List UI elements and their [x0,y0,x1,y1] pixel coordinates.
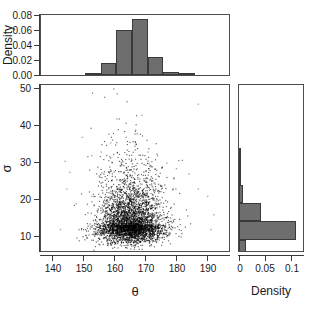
scatter-x-axis-line [40,255,230,256]
right-histogram-bar [239,203,261,221]
top-histogram-y-tick-0 [34,75,39,76]
top-histogram-panel [40,14,230,76]
right-histogram-x-tick-0 [239,256,240,261]
scatter-plot-area [41,85,229,251]
scatter-points-canvas [41,85,229,251]
right-histogram-x-ticklabel-005: 0.05 [249,263,281,274]
top-histogram-bar [101,63,117,75]
scatter-x-tick-140 [52,256,53,261]
scatter-y-ticklabel-40: 40 [6,120,31,131]
right-histogram-x-axis-line [238,255,304,256]
right-histogram-bar [239,185,243,203]
scatter-x-ticklabel-190: 190 [192,263,224,274]
scatter-y-ticklabel-20: 20 [6,194,31,205]
top-histogram-bar [116,30,132,75]
scatter-panel [40,84,230,252]
right-histogram-bar [239,240,246,252]
scatter-x-ticklabel-170: 170 [130,263,162,274]
right-histogram-x-tick-01 [291,256,292,261]
top-histogram-bar [148,57,164,75]
scatter-x-tick-150 [83,256,84,261]
scatter-x-tick-190 [207,256,208,261]
top-histogram-bar [85,73,101,75]
scatter-x-ticklabel-140: 140 [37,263,69,274]
scatter-x-tick-170 [145,256,146,261]
top-histogram-plot-area [41,15,229,75]
scatter-x-ticklabel-150: 150 [68,263,100,274]
scatter-x-axis-title: θ [105,284,165,299]
scatter-y-tick-20 [34,199,39,200]
right-histogram-bar [239,221,296,239]
right-histogram-x-ticklabel-0: 0 [231,263,249,274]
scatter-x-tick-160 [114,256,115,261]
right-histogram-bar [239,148,241,166]
scatter-x-tick-180 [176,256,177,261]
scatter-y-ticklabel-10: 10 [6,231,31,242]
top-histogram-y-tick-4 [34,15,39,16]
right-histogram-x-axis-title: Density [238,284,304,298]
scatter-y-ticklabel-50: 50 [6,83,31,94]
scatter-y-axis-title: σ [0,154,14,184]
scatter-y-tick-50 [34,88,39,89]
top-histogram-y-tick-2 [34,45,39,46]
right-histogram-x-tick-005 [265,256,266,261]
figure-scatter-with-marginal-histograms: 0.00 0.02 0.04 0.06 0.08 Density 10 20 3… [0,0,312,309]
top-histogram-bar [163,72,179,75]
top-histogram-y-tick-3 [34,30,39,31]
top-histogram-bar [179,73,195,75]
scatter-x-ticklabel-160: 160 [99,263,131,274]
scatter-y-tick-10 [34,236,39,237]
scatter-y-tick-40 [34,125,39,126]
right-histogram-x-ticklabel-01: 0.1 [281,263,303,274]
right-histogram-bar [239,166,241,184]
scatter-x-ticklabel-180: 180 [161,263,193,274]
top-histogram-bar [132,19,148,75]
top-histogram-y-axis-title: Density [1,15,15,75]
right-histogram-panel [238,84,304,252]
top-histogram-y-tick-1 [34,60,39,61]
scatter-y-tick-30 [34,162,39,163]
